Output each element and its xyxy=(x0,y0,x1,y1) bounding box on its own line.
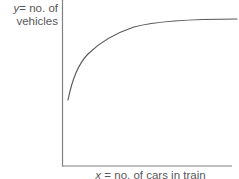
x-label-equals: = xyxy=(104,169,111,179)
x-axis-label: x = no. of cars in train xyxy=(62,169,239,179)
y-axis-label: y= no. of vehicles xyxy=(0,2,58,27)
data-curve xyxy=(68,19,237,100)
x-variable-symbol: x xyxy=(95,169,101,179)
y-label-equals: = xyxy=(19,2,26,14)
y-label-line2-text: vehicles xyxy=(16,15,58,27)
x-label-text: no. of cars in train xyxy=(114,169,205,179)
chart-figure: y= no. of vehicles x = no. of cars in tr… xyxy=(0,0,239,179)
y-label-line1-text: no. of xyxy=(29,2,58,14)
